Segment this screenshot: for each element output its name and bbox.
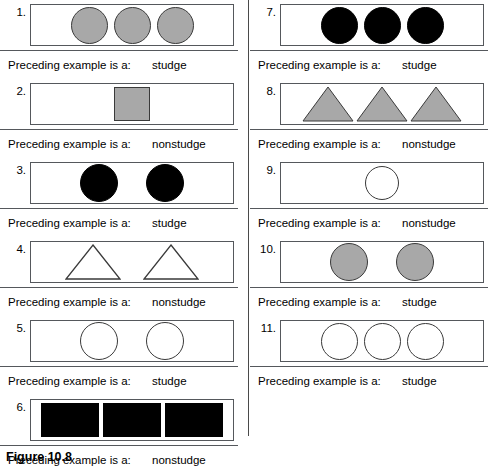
- stimulus-circle-shape: [407, 7, 444, 44]
- stimulus-triangle-shape: [410, 86, 462, 122]
- answer-row: Preceding example is a:studge: [250, 287, 488, 316]
- stimulus-box: [30, 83, 234, 125]
- example-number: 9.: [250, 164, 276, 176]
- shape-strip: [281, 321, 483, 361]
- answer-prompt-label: Preceding example is a:: [258, 58, 381, 72]
- stimulus-row: 5.: [0, 316, 238, 366]
- stimulus-box: [280, 83, 484, 125]
- example-number: 3.: [0, 164, 26, 176]
- stimulus-row: 4.: [0, 237, 238, 287]
- stimulus-row: 3.: [0, 158, 238, 208]
- stimulus-circle-shape: [157, 7, 194, 44]
- example-number: 1.: [0, 6, 26, 18]
- example-item: 5.Preceding example is a:studge: [0, 316, 238, 395]
- example-item: 3.Preceding example is a:studge: [0, 158, 238, 237]
- answer-prompt-label: Preceding example is a:: [8, 137, 131, 151]
- figure-caption: Figure 10.8: [6, 450, 72, 465]
- left-column: 1.Preceding example is a:studge2.Precedi…: [0, 0, 244, 472]
- answer-prompt-label: Preceding example is a:: [8, 295, 131, 309]
- stimulus-square-shape: [114, 87, 150, 121]
- example-number: 2.: [0, 85, 26, 97]
- answer-row: Preceding example is a:studge: [250, 50, 488, 79]
- answer-prompt-label: Preceding example is a:: [258, 374, 381, 388]
- stimulus-circle-shape: [71, 7, 108, 44]
- stimulus-triangle-shape: [143, 244, 199, 280]
- answer-value: studge: [402, 374, 437, 388]
- shape-strip: [31, 242, 233, 282]
- example-number: 7.: [250, 6, 276, 18]
- shape-strip: [31, 321, 233, 361]
- answer-prompt-label: Preceding example is a:: [258, 137, 381, 151]
- stimulus-box: [30, 241, 234, 283]
- answer-row: Preceding example is a:studge: [0, 366, 238, 395]
- stimulus-row: 1.: [0, 0, 238, 50]
- stimulus-row: 10.: [250, 237, 488, 287]
- stimulus-box: [280, 320, 484, 362]
- answer-value: studge: [402, 58, 437, 72]
- stimulus-circle-shape: [407, 323, 444, 360]
- example-item: 1.Preceding example is a:studge: [0, 0, 238, 79]
- stimulus-row: 6.: [0, 395, 238, 445]
- answer-value: studge: [152, 58, 187, 72]
- column-divider: [248, 0, 249, 436]
- example-item: 7.Preceding example is a:studge: [250, 0, 488, 79]
- stimulus-circle-shape: [396, 243, 434, 281]
- example-item: 10.Preceding example is a:studge: [250, 237, 488, 316]
- example-number: 10.: [250, 243, 276, 255]
- example-number: 4.: [0, 243, 26, 255]
- stimulus-circle-shape: [321, 323, 358, 360]
- example-item: 8.Preceding example is a:nonstudge: [250, 79, 488, 158]
- example-number: 8.: [250, 85, 276, 97]
- answer-prompt-label: Preceding example is a:: [8, 216, 131, 230]
- right-column: 7.Preceding example is a:studge8.Precedi…: [250, 0, 488, 395]
- stimulus-triangle-shape: [302, 86, 354, 122]
- shape-strip: [281, 242, 483, 282]
- shape-strip: [31, 163, 233, 203]
- example-number: 6.: [0, 401, 26, 413]
- stimulus-row: 8.: [250, 79, 488, 129]
- shape-strip: [31, 5, 233, 45]
- stimulus-circle-shape: [80, 164, 118, 202]
- example-number: 11.: [250, 322, 276, 334]
- stimulus-circle-shape: [146, 322, 184, 360]
- answer-row: Preceding example is a:studge: [250, 366, 488, 395]
- answer-row: Preceding example is a:studge: [0, 50, 238, 79]
- stimulus-circle-shape: [321, 7, 358, 44]
- example-number: 5.: [0, 322, 26, 334]
- stimulus-circle-shape: [364, 323, 401, 360]
- answer-value: studge: [152, 374, 187, 388]
- stimulus-circle-shape: [146, 164, 184, 202]
- stimulus-row: 11.: [250, 316, 488, 366]
- answer-row: Preceding example is a:nonstudge: [0, 129, 238, 158]
- answer-value: nonstudge: [152, 137, 206, 151]
- stimulus-circle-shape: [330, 243, 368, 281]
- stimulus-circle-shape: [114, 7, 151, 44]
- figure-container: 1.Preceding example is a:studge2.Precedi…: [0, 0, 488, 472]
- stimulus-box: [30, 162, 234, 204]
- shape-strip: [31, 84, 233, 124]
- stimulus-box: [30, 399, 234, 441]
- stimulus-row: 7.: [250, 0, 488, 50]
- answer-prompt-label: Preceding example is a:: [258, 216, 381, 230]
- shape-strip: [31, 400, 233, 440]
- answer-value: nonstudge: [402, 137, 456, 151]
- stimulus-circle-shape: [80, 322, 118, 360]
- answer-value: nonstudge: [402, 216, 456, 230]
- stimulus-triangle-shape: [356, 86, 408, 122]
- answer-value: studge: [402, 295, 437, 309]
- stimulus-square-shape: [103, 403, 161, 437]
- answer-value: studge: [152, 216, 187, 230]
- stimulus-circle-shape: [365, 166, 399, 200]
- shape-strip: [281, 163, 483, 203]
- stimulus-row: 2.: [0, 79, 238, 129]
- stimulus-box: [280, 241, 484, 283]
- stimulus-box: [30, 320, 234, 362]
- shape-strip: [281, 5, 483, 45]
- stimulus-row: 9.: [250, 158, 488, 208]
- example-item: 11.Preceding example is a:studge: [250, 316, 488, 395]
- answer-row: Preceding example is a:nonstudge: [0, 287, 238, 316]
- stimulus-box: [280, 4, 484, 46]
- answer-row: Preceding example is a:studge: [0, 208, 238, 237]
- stimulus-box: [280, 162, 484, 204]
- answer-prompt-label: Preceding example is a:: [258, 295, 381, 309]
